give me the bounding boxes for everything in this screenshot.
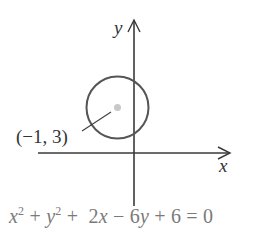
eq-plus-1: + xyxy=(29,205,40,227)
circle-equation: x2 + y2 + 2x − 6y + 6 = 0 xyxy=(9,205,255,228)
eq-var-y: y xyxy=(46,205,55,227)
eq-const: 6 xyxy=(171,205,181,227)
eq-term-6y: 6y xyxy=(130,205,149,227)
y-axis-label: y xyxy=(112,17,123,38)
eq-zero: 0 xyxy=(203,205,213,227)
center-label: (−1, 3) xyxy=(16,126,68,148)
eq-term-2x: 2x xyxy=(89,205,108,227)
eq-equals: = xyxy=(186,205,197,227)
y-axis xyxy=(128,20,140,206)
eq-var-x: x xyxy=(9,205,18,227)
center-leader-line xyxy=(82,112,111,131)
eq-exp-x: 2 xyxy=(18,204,24,218)
eq-exp-y: 2 xyxy=(55,204,61,218)
eq-plus-2: + xyxy=(67,205,78,227)
x-axis-label: x xyxy=(218,155,228,176)
eq-minus: − xyxy=(113,205,124,227)
eq-plus-3: + xyxy=(154,205,165,227)
circle-center-dot xyxy=(114,104,121,111)
